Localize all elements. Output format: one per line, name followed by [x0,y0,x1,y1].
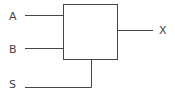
mux-block [64,5,118,60]
select-s-label: S [9,78,16,91]
select-s-wire [25,60,92,88]
input-a-label: A [9,10,17,23]
mux-diagram: A B S X [0,0,175,94]
output-x-label: X [159,24,167,37]
input-b-label: B [9,43,17,56]
